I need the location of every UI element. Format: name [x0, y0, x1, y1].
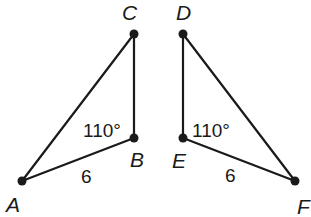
vertex-e-point: [179, 134, 188, 143]
vertex-f-label: F: [297, 195, 311, 217]
angle-b-measure: 110°: [83, 120, 121, 141]
side-ef-length: 6: [225, 165, 236, 186]
angle-e-measure: 110°: [192, 120, 230, 141]
vertex-b-label: B: [130, 148, 144, 171]
vertex-c-point: [130, 30, 139, 39]
triangle-def-shape: [183, 34, 295, 181]
vertex-c-label: C: [122, 1, 138, 24]
congruent-triangles-diagram: C B A 110° 6 D E F 110° 6: [0, 0, 311, 217]
vertex-a-label: A: [4, 193, 20, 216]
triangle-def: D E F 110° 6: [172, 1, 311, 217]
triangle-abc-shape: [22, 34, 134, 181]
side-ab-length: 6: [81, 166, 92, 187]
triangle-abc: C B A 110° 6: [4, 1, 144, 216]
diagram-svg: C B A 110° 6 D E F 110° 6: [0, 0, 311, 217]
vertex-f-point: [291, 177, 300, 186]
vertex-d-point: [179, 30, 188, 39]
vertex-b-point: [130, 134, 139, 143]
vertex-e-label: E: [172, 149, 187, 172]
vertex-a-point: [18, 177, 27, 186]
vertex-d-label: D: [176, 1, 191, 24]
